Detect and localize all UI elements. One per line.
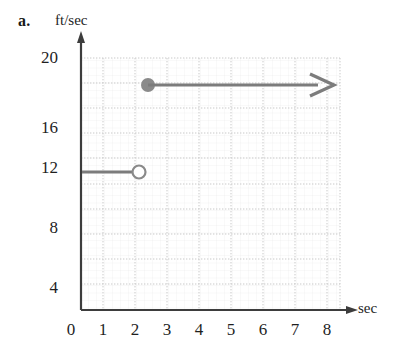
velocity-step-graph-figure: a. ft/sec sec 20 16 12 8 4 0 1 2 3 4 5 6… [0,0,404,351]
y-axis-arrowhead [77,31,85,43]
open-circle-endpoint-icon [133,166,146,179]
x-axis-arrowhead [346,306,358,314]
plot-canvas [0,0,404,351]
